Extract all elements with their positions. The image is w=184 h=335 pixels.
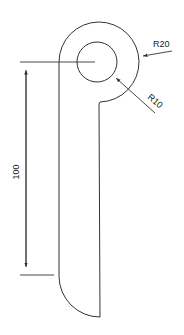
part-outline	[59, 22, 139, 317]
length-dimension-label: 100	[11, 164, 21, 179]
r20-leader	[143, 51, 172, 56]
outer-radius-label: R20	[153, 39, 170, 49]
technical-drawing: 100 R20 R10	[0, 0, 184, 335]
